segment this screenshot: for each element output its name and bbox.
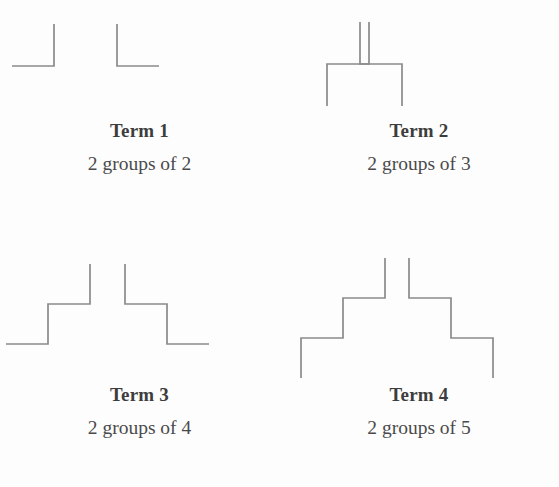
- terms-grid: Term 1 2 groups of 2 Term 2 2 groups of …: [0, 0, 559, 487]
- term-description-2: 2 groups of 3: [279, 152, 559, 175]
- term-caption-4: Term 4 2 groups of 5: [279, 384, 559, 439]
- staircase-right-3: [125, 264, 209, 344]
- staircase-left-4: [301, 258, 385, 378]
- term-caption-3: Term 3 2 groups of 4: [0, 384, 279, 439]
- term-description-3: 2 groups of 4: [0, 416, 279, 439]
- staircase-right-1: [117, 24, 159, 66]
- worksheet-canvas: Term 1 2 groups of 2 Term 2 2 groups of …: [0, 0, 559, 487]
- term-title-4: Term 4: [279, 384, 559, 407]
- staircase-left-3: [6, 264, 90, 344]
- staircase-left-1: [12, 24, 54, 66]
- staircase-diagram-2: [279, 0, 559, 128]
- term-cell-4: Term 4 2 groups of 5: [279, 244, 559, 487]
- term-description-1: 2 groups of 2: [0, 152, 279, 175]
- term-figure-4: [279, 250, 559, 390]
- term-title-1: Term 1: [0, 120, 279, 143]
- staircase-diagram-4: [279, 250, 559, 390]
- term-cell-1: Term 1 2 groups of 2: [0, 0, 279, 244]
- term-caption-1: Term 1 2 groups of 2: [0, 120, 279, 175]
- term-cell-3: Term 3 2 groups of 4: [0, 244, 279, 487]
- term-figure-2: [279, 0, 559, 128]
- staircase-diagram-1: [0, 0, 279, 128]
- term-figure-1: [0, 0, 279, 128]
- staircase-right-2: [360, 22, 402, 106]
- term-description-4: 2 groups of 5: [279, 416, 559, 439]
- staircase-right-4: [409, 258, 493, 378]
- term-title-3: Term 3: [0, 384, 279, 407]
- term-figure-3: [0, 250, 279, 390]
- staircase-diagram-3: [0, 250, 279, 390]
- term-title-2: Term 2: [279, 120, 559, 143]
- term-caption-2: Term 2 2 groups of 3: [279, 120, 559, 175]
- term-cell-2: Term 2 2 groups of 3: [279, 0, 559, 244]
